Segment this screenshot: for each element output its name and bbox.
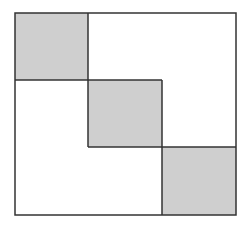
shaded-blocks <box>15 13 236 215</box>
block-diagonal-diagram <box>0 0 248 230</box>
block-2 <box>88 80 162 147</box>
block-1 <box>15 13 88 80</box>
block-3 <box>162 147 236 215</box>
